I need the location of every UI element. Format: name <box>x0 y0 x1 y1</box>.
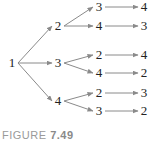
tree-node: 2 <box>55 18 62 33</box>
tree-node: 4 <box>96 65 103 80</box>
arrow-edge <box>64 7 93 26</box>
arrow-edge <box>18 63 52 101</box>
tree-edges <box>18 7 138 111</box>
figure-caption: FIGURE 7.49 <box>2 129 74 141</box>
arrow-edge <box>18 26 52 63</box>
arrow-edge <box>64 101 93 111</box>
tree-node: 2 <box>141 103 148 118</box>
tree-node: 4 <box>55 93 62 108</box>
tree-node: 2 <box>96 85 103 100</box>
tree-node: 3 <box>141 18 148 33</box>
tree-node: 3 <box>96 0 103 14</box>
tree-node: 3 <box>141 85 148 100</box>
tree-node: 4 <box>96 18 103 33</box>
figure-number: 7.49 <box>50 129 73 141</box>
arrow-edge <box>64 63 93 73</box>
arrow-edge <box>64 55 93 63</box>
tree-diagram: 1234342423434232 <box>0 0 155 149</box>
tree-node: 2 <box>96 47 103 62</box>
tree-node: 2 <box>141 65 148 80</box>
figure-label: FIGURE <box>2 129 47 141</box>
tree-node: 3 <box>55 55 62 70</box>
tree-node: 3 <box>96 103 103 118</box>
tree-node: 1 <box>9 55 16 70</box>
tree-node: 4 <box>141 47 148 62</box>
tree-node: 4 <box>141 0 148 14</box>
arrow-edge <box>64 93 93 101</box>
